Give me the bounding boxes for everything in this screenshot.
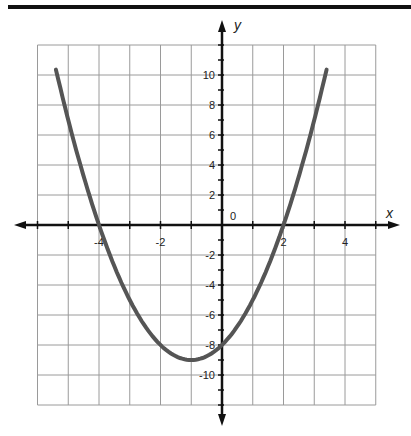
y-tick-label: 4 [209, 159, 215, 171]
y-tick-label: -4 [205, 279, 215, 291]
y-tick-label: 8 [209, 99, 215, 111]
y-tick-label: 6 [209, 129, 215, 141]
y-tick-label: 10 [203, 69, 215, 81]
y-tick-label: -8 [205, 339, 215, 351]
origin-label: 0 [230, 210, 236, 222]
y-tick-label: -10 [199, 369, 215, 381]
x-axis-right-arrow-icon [388, 221, 400, 229]
y-axis-label: y [233, 17, 242, 33]
x-axis-label: x [385, 205, 394, 221]
y-tick-label: -6 [205, 309, 215, 321]
x-tick-label: 2 [280, 236, 286, 248]
y-axis-up-arrow-icon [218, 20, 226, 32]
y-tick-label: 2 [209, 189, 215, 201]
x-tick-label: -2 [156, 236, 166, 248]
y-tick-label: -2 [205, 249, 215, 261]
y-axis-down-arrow-icon [218, 414, 226, 426]
x-tick-label: 4 [342, 236, 348, 248]
parabola-chart: -4-224108642-2-4-6-8-10 x y 0 [0, 0, 411, 436]
x-axis-left-arrow-icon [14, 221, 26, 229]
